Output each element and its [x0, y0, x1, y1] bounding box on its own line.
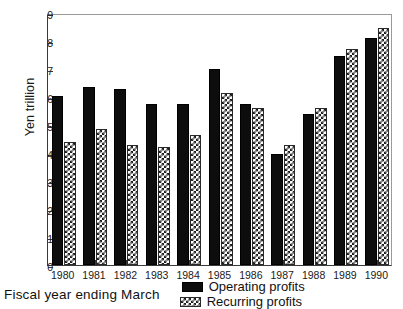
- bar-group: [271, 15, 295, 265]
- bar-recurring-profits: [127, 145, 139, 265]
- bar-recurring-profits: [346, 49, 358, 265]
- x-tick-mark: [252, 260, 253, 265]
- bar-group: [365, 15, 389, 265]
- bar-recurring-profits: [378, 28, 390, 265]
- bar-recurring-profits: [315, 108, 327, 265]
- bar-group: [83, 15, 107, 265]
- plot-area: 0123456789: [47, 14, 392, 266]
- x-tick-mark: [189, 260, 190, 265]
- x-tick-mark: [126, 260, 127, 265]
- bar-operating-profits: [271, 154, 283, 265]
- bar-group: [240, 15, 264, 265]
- x-tick-mark: [158, 260, 159, 265]
- bar-operating-profits: [177, 104, 189, 265]
- bar-operating-profits: [303, 114, 315, 265]
- legend-swatch-recurring-profits: [180, 297, 201, 307]
- x-tick-mark: [64, 260, 65, 265]
- bar-recurring-profits: [190, 135, 202, 265]
- bar-recurring-profits: [221, 93, 233, 265]
- x-tick-mark: [346, 260, 347, 265]
- bar-operating-profits: [240, 104, 252, 265]
- bar-recurring-profits: [64, 142, 76, 265]
- bar-recurring-profits: [96, 129, 108, 265]
- x-tick-mark: [315, 260, 316, 265]
- bar-group: [146, 15, 170, 265]
- bar-group: [303, 15, 327, 265]
- legend: Operating profitsRecurring profits: [160, 279, 305, 309]
- bar-operating-profits: [365, 38, 377, 265]
- legend-item: Recurring profits: [180, 294, 305, 309]
- x-tick-mark: [95, 260, 96, 265]
- x-tick-label: 1990: [353, 269, 399, 281]
- legend-item: Operating profits: [182, 279, 305, 294]
- bar-recurring-profits: [158, 147, 170, 265]
- bar-group: [334, 15, 358, 265]
- x-tick-mark: [377, 260, 378, 265]
- bar-operating-profits: [334, 56, 346, 265]
- chart-caption-and-legend: Fiscal year ending March Operating profi…: [4, 284, 400, 304]
- bar-group: [52, 15, 76, 265]
- bar-operating-profits: [52, 96, 64, 265]
- bar-group: [177, 15, 201, 265]
- bar-operating-profits: [83, 87, 95, 265]
- bar-recurring-profits: [284, 145, 296, 265]
- bar-operating-profits: [114, 89, 126, 265]
- x-tick-mark: [221, 260, 222, 265]
- bar-operating-profits: [146, 104, 158, 265]
- legend-label: Recurring profits: [207, 294, 302, 309]
- legend-label: Operating profits: [209, 279, 305, 294]
- x-tick-mark: [283, 260, 284, 265]
- legend-swatch-operating-profits: [182, 282, 203, 292]
- bar-operating-profits: [209, 69, 221, 265]
- bar-group: [209, 15, 233, 265]
- bar-recurring-profits: [252, 108, 264, 265]
- bar-series-layer: [48, 15, 391, 265]
- x-axis-title: Fiscal year ending March: [4, 287, 160, 302]
- bar-group: [114, 15, 138, 265]
